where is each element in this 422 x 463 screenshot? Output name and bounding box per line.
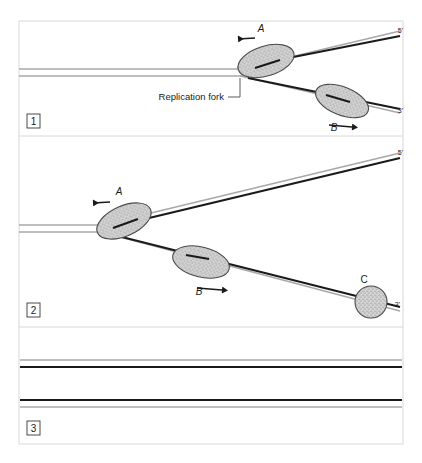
panel-1-enzyme-a-label: A <box>257 23 265 34</box>
panel2-enzyme-c-circle <box>355 286 387 318</box>
panel-2-enzyme-b-label: B <box>196 286 203 297</box>
panel-3-badge-label: 3 <box>31 423 37 434</box>
panel-1-five-prime-label: 5' <box>398 27 403 34</box>
panel-1-badge-label: 1 <box>31 116 37 127</box>
panel-2-enzyme-c-label: C <box>360 274 367 285</box>
panel-2-badge-label: 2 <box>31 305 37 316</box>
panel-2-three-prime-label: 3' <box>395 301 400 308</box>
replication-fork-figure: 1 Replication fork A B 5' 3' <box>0 0 422 463</box>
panel-1-replication-fork-label: Replication fork <box>159 91 225 102</box>
panel-2-enzyme-a-label: A <box>115 186 123 197</box>
panel-1-three-prime-label: 3' <box>398 107 403 114</box>
figure-caption <box>22 452 414 463</box>
panel-1-enzyme-b-label: B <box>331 122 338 133</box>
panel2-enzyme-a-direction-arrow <box>93 202 110 203</box>
panel-2-five-prime-label: 5' <box>398 149 403 156</box>
figure-canvas: 1 Replication fork A B 5' 3' <box>0 0 422 463</box>
panel1-enzyme-a-direction-arrow <box>238 38 255 39</box>
